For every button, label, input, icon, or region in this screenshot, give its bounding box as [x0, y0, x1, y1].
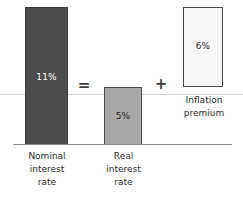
caption-line: rate: [95, 176, 152, 189]
bar-nominal-interest-rate: 11%: [25, 7, 68, 145]
caption-line: Inflation: [174, 94, 234, 107]
bar-inflation-premium: 6%: [183, 7, 223, 87]
caption-line: interest: [14, 163, 80, 176]
interest-rate-decomposition-chart: 11% = 5% + 6% Nominal interest rate Real…: [0, 0, 243, 198]
caption-line: Real: [95, 150, 152, 163]
caption-line: premium: [174, 107, 234, 120]
caption-real-interest-rate: Real interest rate: [95, 150, 152, 189]
caption-inflation-premium: Inflation premium: [174, 94, 234, 120]
caption-line: interest: [95, 163, 152, 176]
caption-nominal-interest-rate: Nominal interest rate: [14, 150, 80, 189]
caption-line: Nominal: [14, 150, 80, 163]
equals-operator: =: [75, 78, 93, 93]
plus-operator: +: [152, 77, 170, 92]
bar-value-nominal: 11%: [26, 72, 67, 82]
bar-value-inflation: 6%: [184, 41, 222, 51]
bar-value-real: 5%: [105, 111, 141, 121]
bar-real-interest-rate: 5%: [104, 87, 142, 145]
chart-baseline: [13, 144, 232, 145]
caption-line: rate: [14, 176, 80, 189]
